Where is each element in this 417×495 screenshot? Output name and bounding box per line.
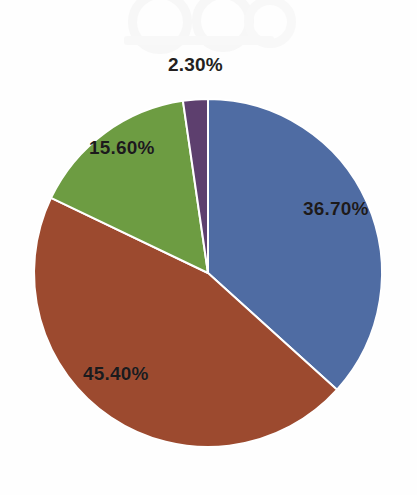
pie-chart: 36.70% 45.40% 15.60% 2.30% xyxy=(0,0,417,495)
pie-chart-page: 36.70% 45.40% 15.60% 2.30% xyxy=(0,0,417,495)
pie-slice-label-blue: 36.70% xyxy=(303,198,369,220)
pie-slice-label-green: 15.60% xyxy=(89,137,155,159)
pie-slice-label-red: 45.40% xyxy=(83,363,149,385)
pie-slice-label-purple: 2.30% xyxy=(168,54,223,76)
pie-slice-group xyxy=(34,99,382,447)
